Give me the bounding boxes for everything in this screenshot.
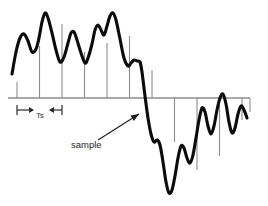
sample-leader-group [98,114,139,140]
sample-label: sample [71,139,102,150]
diagram-canvas: Ts sample [0,0,268,206]
sampling-diagram: Ts sample [0,0,268,206]
ts-right-arrowhead-icon [49,107,54,113]
sampling-period-label: Ts [36,111,44,120]
sample-leader-arrowhead-icon [131,114,139,121]
sample-lines-group [17,24,250,170]
ts-left-arrowhead-icon [29,107,34,113]
